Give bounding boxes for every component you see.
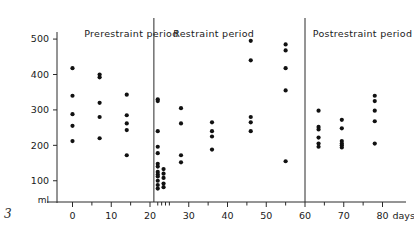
data-point	[156, 99, 160, 103]
data-point	[98, 101, 102, 105]
y-tick-label: 300	[31, 104, 49, 115]
data-point	[249, 120, 253, 124]
data-point	[161, 172, 165, 176]
data-point	[316, 109, 320, 113]
x-tick-label: 70	[338, 210, 350, 221]
x-tick-label: 10	[105, 210, 117, 221]
data-point	[156, 129, 160, 133]
y-axis-unit-label: ml	[38, 195, 49, 205]
data-point	[373, 119, 377, 123]
data-point	[249, 58, 253, 62]
period-dividers	[154, 18, 305, 202]
data-point	[98, 75, 102, 79]
data-point	[284, 66, 288, 70]
period-label: Restraint period	[173, 28, 254, 39]
data-point	[125, 153, 129, 157]
data-point	[373, 94, 377, 98]
data-point	[156, 145, 160, 149]
data-point	[340, 118, 344, 122]
data-point	[210, 147, 214, 151]
data-point	[179, 153, 183, 157]
x-tick-label: 20	[144, 210, 156, 221]
x-tick-label: 50	[260, 210, 272, 221]
data-point	[125, 121, 129, 125]
y-tick-label: 200	[31, 140, 49, 151]
axis-labels-layer: 100200300400500ml01020304050607080days	[31, 33, 414, 221]
axes-layer	[47, 32, 406, 207]
x-tick-label: 80	[376, 210, 388, 221]
period-labels-layer: Prerestraint periodRestraint periodPostr…	[84, 28, 412, 39]
y-tick-label: 100	[31, 175, 49, 186]
x-axis-unit-label: days	[393, 210, 414, 221]
data-point	[373, 141, 377, 145]
period-label: Postrestraint period	[313, 28, 413, 39]
data-point	[210, 134, 214, 138]
figure-root: 3 100200300400500ml01020304050607080days…	[0, 0, 414, 248]
data-point	[210, 129, 214, 133]
data-point	[156, 179, 160, 183]
x-tick-label: 40	[221, 210, 233, 221]
data-point	[156, 151, 160, 155]
data-point	[373, 109, 377, 113]
figure-number: 3	[4, 207, 12, 221]
data-point	[179, 106, 183, 110]
data-point	[284, 48, 288, 52]
data-point	[125, 93, 129, 97]
period-label: Prerestraint period	[84, 28, 178, 39]
x-tick-label: 0	[69, 210, 75, 221]
data-points-layer	[70, 39, 376, 191]
data-point	[98, 136, 102, 140]
data-point	[70, 66, 74, 70]
data-point	[249, 115, 253, 119]
data-point	[316, 145, 320, 149]
data-point	[340, 145, 344, 149]
data-point	[156, 174, 160, 178]
data-point	[249, 129, 253, 133]
data-point	[70, 124, 74, 128]
y-tick-label: 500	[31, 33, 49, 44]
series-urine-volume	[70, 39, 376, 191]
data-point	[284, 88, 288, 92]
data-point	[70, 94, 74, 98]
data-point	[210, 120, 214, 124]
x-tick-label: 30	[183, 210, 195, 221]
data-point	[249, 39, 253, 43]
x-tick-label: 60	[299, 210, 311, 221]
data-point	[179, 121, 183, 125]
data-point	[156, 164, 160, 168]
data-point	[70, 139, 74, 143]
data-point	[316, 127, 320, 131]
data-point	[284, 42, 288, 46]
data-point	[340, 126, 344, 130]
data-point	[179, 160, 183, 164]
data-point	[284, 159, 288, 163]
data-point	[156, 186, 160, 190]
data-point	[125, 128, 129, 132]
data-point	[161, 167, 165, 171]
data-point	[161, 185, 165, 189]
data-point	[316, 135, 320, 139]
data-point	[70, 112, 74, 116]
data-point	[98, 115, 102, 119]
scatter-plot: 100200300400500ml01020304050607080days P…	[0, 0, 414, 248]
data-point	[373, 99, 377, 103]
data-point	[161, 176, 165, 180]
data-point	[125, 113, 129, 117]
y-tick-label: 400	[31, 69, 49, 80]
